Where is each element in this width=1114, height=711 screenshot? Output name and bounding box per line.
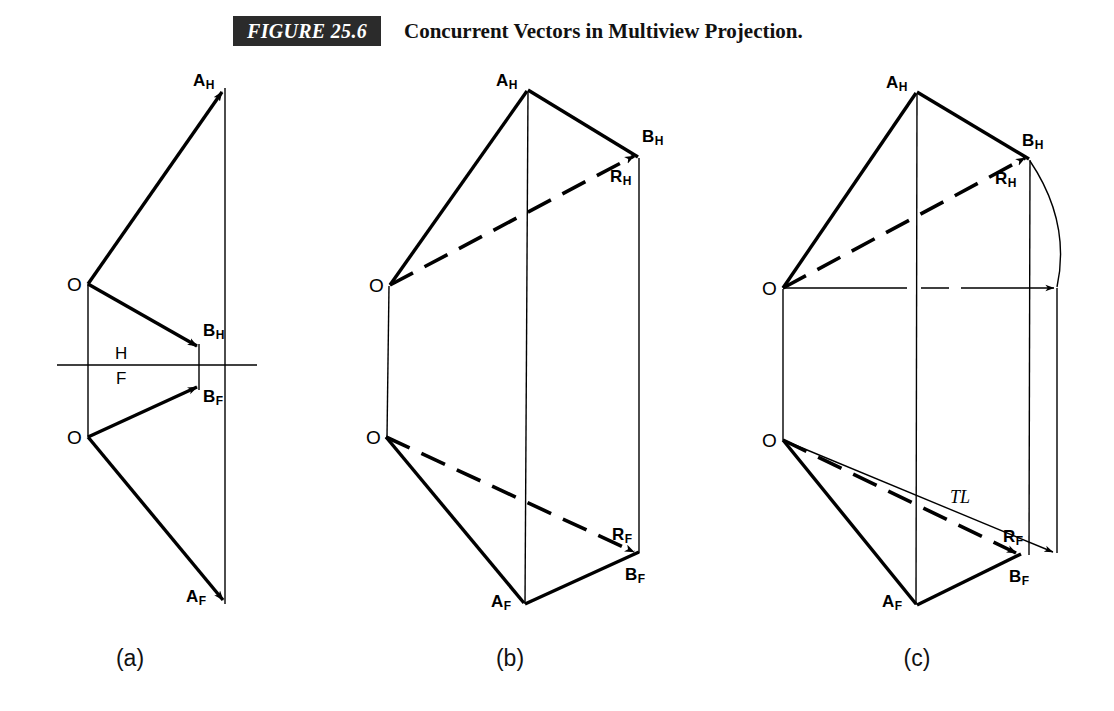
panel-a-drawing [57,88,257,604]
label-r-front-c-letter: R [1003,527,1015,546]
label-a-top-c-sub: H [899,80,908,94]
figure-drawing [0,0,1114,711]
projector-a-c [916,94,917,605]
projector-b-c [1029,160,1030,555]
label-a-top-c: AH [886,74,907,91]
vector-ab-front-c [917,554,1021,605]
vector-oa-top-b [390,91,527,285]
vector-ob-front-a [88,387,197,437]
label-a-front-b-letter: A [491,592,503,611]
label-fold-h: H [115,345,127,362]
panel-b-drawing [386,90,639,604]
label-r-top-c: RH [995,170,1016,187]
label-a-top-b: AH [496,72,517,89]
label-origin-top-c: O [762,279,777,298]
label-a-top-c-letter: A [886,73,898,92]
label-origin-front-a: O [67,428,82,447]
label-a-top-a: AH [193,72,214,89]
panel-caption-a: (a) [116,645,144,672]
projector-a-b [525,92,528,604]
label-b-front-a-letter: B [203,387,215,406]
label-b-front-c-sub: F [1022,574,1029,588]
resultant-top-b [390,156,634,285]
label-b-front-b-sub: F [638,572,645,586]
vector-ab-front-b [525,552,639,604]
label-b-top-c-letter: B [1022,131,1034,150]
vector-oa-top-a [88,92,222,284]
label-r-front-b-letter: R [612,525,624,544]
label-origin-front-c: O [762,431,777,450]
panel-caption-c: (c) [904,645,931,672]
label-b-top-b-letter: B [642,127,654,146]
resultant-front-b [386,437,634,552]
swing-arc-c [1030,161,1061,287]
label-b-front-b: BF [625,566,645,583]
label-r-top-b-letter: R [610,167,622,186]
vector-oa-front-b [386,437,524,603]
label-a-front-a-letter: A [186,587,198,606]
label-true-length: TL [950,488,970,506]
label-origin-top-b: O [369,276,384,295]
label-r-top-b-sub: H [623,174,632,188]
vector-oa-front-c [783,440,916,604]
label-a-top-b-sub: H [509,78,518,92]
label-a-top-a-sub: H [206,78,215,92]
vector-ab-top-b [528,90,638,157]
panel-caption-b: (b) [496,645,524,672]
label-r-front-b: RF [612,526,632,543]
label-b-top-a-sub: H [216,328,225,342]
label-b-front-c: BF [1009,568,1029,585]
label-r-front-c: RF [1003,528,1023,545]
vector-ab-top-c [917,92,1029,159]
label-r-top-c-sub: H [1008,176,1017,190]
label-b-top-c-sub: H [1035,138,1044,152]
vector-oa-front-a [88,437,223,600]
label-r-front-c-sub: F [1016,534,1023,548]
label-b-top-a-letter: B [203,321,215,340]
label-a-front-c-letter: A [882,592,894,611]
label-a-front-a: AF [186,588,206,605]
label-r-top-c-letter: R [995,169,1007,188]
figure-page: FIGURE 25.6 Concurrent Vectors in Multiv… [0,0,1114,711]
resultant-front-c [783,440,1016,553]
label-b-top-c: BH [1022,132,1043,149]
vector-ob-top-a [88,284,197,346]
label-a-front-b-sub: F [504,599,511,613]
label-a-front-c-sub: F [895,599,902,613]
label-a-top-a-letter: A [193,71,205,90]
label-b-front-b-letter: B [625,565,637,584]
label-a-front-b: AF [491,593,511,610]
label-origin-top-a: O [67,275,82,294]
label-b-front-a-sub: F [216,394,223,408]
vector-oa-top-c [783,93,916,288]
label-origin-front-b: O [366,428,381,447]
label-a-top-b-letter: A [496,71,508,90]
label-b-front-c-letter: B [1009,567,1021,586]
projector-o-b [387,286,389,437]
label-b-front-a: BF [203,388,223,405]
label-fold-f: F [116,370,126,387]
label-b-top-b: BH [642,128,663,145]
label-a-front-c: AF [882,593,902,610]
resultant-top-c [783,158,1025,288]
label-r-front-b-sub: F [625,532,632,546]
label-b-top-b-sub: H [655,134,664,148]
label-r-top-b: RH [610,168,631,185]
label-b-top-a: BH [203,322,224,339]
label-a-front-a-sub: F [199,594,206,608]
